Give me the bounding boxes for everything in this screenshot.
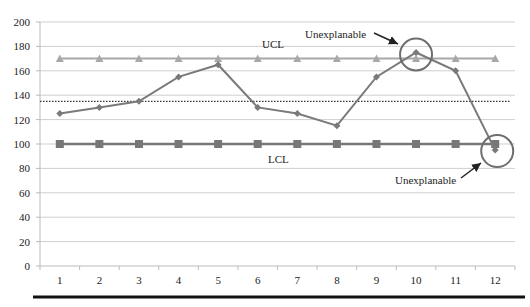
y-tick-label: 180 <box>14 40 31 52</box>
y-tick-label: 60 <box>19 187 31 199</box>
square-marker <box>175 140 183 148</box>
x-tick-label: 2 <box>97 274 103 286</box>
chart-canvas: 020406080100120140160180200 123456789101… <box>0 0 530 307</box>
x-tick-label: 3 <box>136 274 142 286</box>
y-tick-label: 160 <box>14 65 31 77</box>
y-tick-label: 100 <box>14 138 31 150</box>
y-tick-label: 140 <box>14 89 31 101</box>
square-marker <box>214 140 222 148</box>
control-chart: 020406080100120140160180200 123456789101… <box>0 0 530 307</box>
square-marker <box>293 140 301 148</box>
square-marker <box>95 140 103 148</box>
arrow-icon <box>374 33 398 44</box>
annotations: UCL LCL Unexplanable Unexplanable <box>262 28 513 186</box>
square-marker <box>56 140 64 148</box>
y-tick-label: 0 <box>25 260 31 272</box>
x-tick-label: 11 <box>450 274 461 286</box>
diamond-marker <box>294 110 301 117</box>
x-tick-label: 8 <box>334 274 340 286</box>
annotation-unexplanable-top: Unexplanable <box>305 28 366 40</box>
x-tick-label: 12 <box>490 274 501 286</box>
lcl-series <box>56 140 499 148</box>
y-tick-label: 80 <box>19 162 31 174</box>
x-axis-ticks: 123456789101112 <box>57 274 501 286</box>
square-marker <box>412 140 420 148</box>
lcl-label: LCL <box>268 153 289 165</box>
y-tick-label: 20 <box>19 236 31 248</box>
square-marker <box>254 140 262 148</box>
square-marker <box>452 140 460 148</box>
x-tick-label: 1 <box>57 274 63 286</box>
ucl-label: UCL <box>262 38 284 50</box>
diamond-marker <box>96 104 103 111</box>
x-tick-label: 4 <box>176 274 182 286</box>
diamond-marker <box>452 67 459 74</box>
x-tick-label: 5 <box>215 274 221 286</box>
arrow-icon <box>461 163 481 178</box>
y-tick-label: 120 <box>14 114 31 126</box>
y-tick-label: 40 <box>19 211 31 223</box>
x-tick-label: 7 <box>295 274 301 286</box>
annotation-unexplanable-bottom: Unexplanable <box>395 174 456 186</box>
y-axis-ticks: 020406080100120140160180200 <box>14 16 31 272</box>
square-marker <box>372 140 380 148</box>
y-tick-label: 200 <box>14 16 31 28</box>
x-tick-label: 10 <box>411 274 423 286</box>
x-tick-label: 9 <box>374 274 380 286</box>
square-marker <box>333 140 341 148</box>
x-tick-label: 6 <box>255 274 261 286</box>
gridlines <box>40 22 515 242</box>
diamond-marker <box>56 110 63 117</box>
square-marker <box>135 140 143 148</box>
